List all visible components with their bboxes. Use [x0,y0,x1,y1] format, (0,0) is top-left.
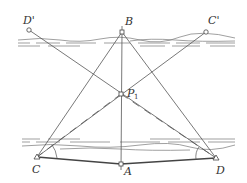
label-c-prime: C' [208,14,219,27]
survey-diagram: D' B C' P 1 C A D [0,0,247,183]
label-d-prime: D' [22,14,35,27]
dashed-lines [37,94,216,158]
survey-lines [29,26,216,170]
label-p1-subscript: 1 [134,93,138,101]
marker-c-prime [204,30,208,34]
marker-b [120,30,124,34]
baseline [37,157,216,164]
label-c: C [32,163,41,176]
label-d: D [215,164,225,177]
label-a: A [123,165,132,178]
river-top [18,33,235,46]
marker-p1 [119,92,123,96]
angle-arcs [52,145,199,160]
label-b: B [124,15,133,28]
marker-d-prime [27,28,31,32]
marker-a [119,162,123,166]
